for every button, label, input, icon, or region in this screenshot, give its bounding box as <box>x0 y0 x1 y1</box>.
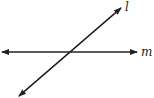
line-l-label: l <box>125 0 129 14</box>
diagram-canvas: l m <box>0 0 154 98</box>
line-m-label: m <box>141 45 152 59</box>
